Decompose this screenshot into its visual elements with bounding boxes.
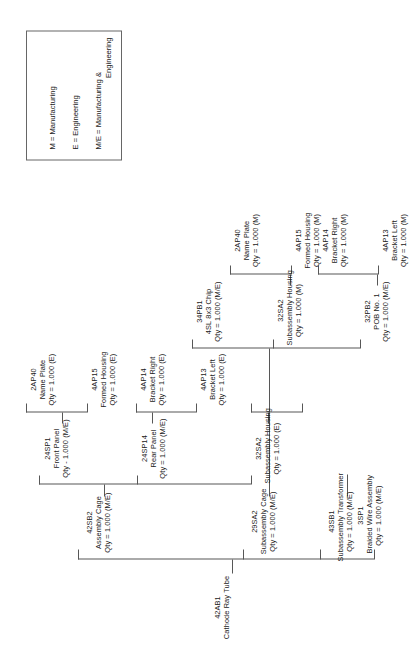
node-desc: POB No. 1 <box>372 279 381 343</box>
legend-row-e: E = Engineering <box>71 95 81 149</box>
node-desc: Name Plate <box>242 211 251 269</box>
node-2AP40-e[interactable]: 2AP40 Name Plate Qty = 1.000 (E) <box>29 351 57 407</box>
node-code: 42SB2 <box>85 491 94 553</box>
connector-32PB2-4AP13 <box>378 265 379 274</box>
connector-32SA2a-spine <box>251 411 302 412</box>
node-desc: Bracket Left <box>390 211 399 269</box>
connector-42SB2-24SP14 <box>137 475 138 484</box>
node-desc: Subassembly Cage <box>259 487 268 555</box>
node-qty: Qty = 1.000 (M/E) <box>268 487 277 555</box>
node-code: 24SP1 <box>43 417 52 479</box>
node-qty: Qty = 1.000 (M/E) <box>103 491 112 553</box>
connector-29SA2-spine <box>192 347 360 348</box>
legend-row-me: M/E = Manufacturing & Engineering <box>94 37 114 149</box>
connector-24SP14-4AP14 <box>136 403 137 412</box>
node-desc: Cathode Ray Tube <box>222 573 231 641</box>
node-desc: Formed Housing <box>99 349 108 409</box>
node-desc: Bracket Left <box>208 351 217 407</box>
node-code: 4AP15 <box>294 210 303 270</box>
node-4AP14-m[interactable]: 4AP14 Bracket Right Qty = 1.000 (M) <box>321 211 349 269</box>
node-code: 4AP15 <box>90 349 99 409</box>
node-qty: Qty = 1.000 (M) <box>399 211 408 269</box>
node-desc: Subassembly Transformer <box>336 481 345 561</box>
node-desc: Bracket Right <box>330 211 339 269</box>
node-4AP13-e[interactable]: 4AP13 Bracket Left Qty = 1.000 (E) <box>199 351 227 407</box>
node-desc: Subassembly Housing <box>285 275 294 345</box>
node-24SP14[interactable]: 24SP14 Rear Panel Qty = 1.000 (M/E) <box>140 417 168 479</box>
node-qty: Qty = 1.000 (M/E) <box>381 279 390 343</box>
node-code: 42AB1 <box>213 573 222 641</box>
connector-24SP14-spine <box>136 411 196 412</box>
node-code: 32SA2 <box>254 413 263 483</box>
node-43SB1[interactable]: 43SB1 Subassembly Transformer Qty = 1.00… <box>327 481 355 561</box>
node-qty: Qty = 1.000 (M/E) <box>345 481 354 561</box>
node-32SA2-m[interactable]: 32SA2 Subassembly Housing Qty = 1.000 (M… <box>276 275 304 345</box>
node-qty: Qty = 1.000 (E) <box>47 351 56 407</box>
node-desc: 4SL 8x3 Chip <box>204 279 213 343</box>
node-code: 3SP1 <box>356 477 365 553</box>
node-2AP40-m[interactable]: 2AP40 Name Plate Qty = 1.000 (M) <box>233 211 261 269</box>
node-qty: Qty = 1.000 (M/E) <box>374 477 383 553</box>
node-34PB1[interactable]: 34PB1 4SL 8x3 Chip Qty = 1.000 (M/E) <box>195 279 223 343</box>
connector-42SB2-24SP1 <box>39 475 40 484</box>
node-29SA2[interactable]: 29SA2 Subassembly Cage Qty = 1.000 (M/E) <box>250 487 278 555</box>
legend-row-m: M = Manufacturing <box>48 86 58 149</box>
node-4AP13-m[interactable]: 4AP13 Bracket Left Qty = 1.000 (M) <box>381 211 409 269</box>
connector-29SA2-34PB1 <box>192 339 193 348</box>
node-4AP14-e[interactable]: 4AP14 Bracket Right Qty = 1.000 (E) <box>139 351 167 407</box>
node-code: 2AP40 <box>29 351 38 407</box>
node-qty: Qty = 1.000 (E) <box>272 413 281 483</box>
connector-32SA2a-4AP13 <box>302 403 303 412</box>
node-24SP1[interactable]: 24SP1 Front Panel Qty - 1.000 (M/E) <box>43 417 71 479</box>
node-code: 32SA2 <box>276 275 285 345</box>
node-qty: Qty = 1.000 (M/E) <box>213 279 222 343</box>
node-code: 2AP40 <box>233 211 242 269</box>
node-32PB2[interactable]: 32PB2 POB No. 1 Qty = 1.000 (M/E) <box>363 279 391 343</box>
node-desc: Name Plate <box>38 351 47 407</box>
legend-text: E = Engineering <box>71 95 80 149</box>
connector-29SA2-32SA2b <box>273 339 274 348</box>
connector-42SB2-32SA2a <box>251 475 252 484</box>
node-desc: Rear Panel <box>149 417 158 479</box>
node-4AP15-m[interactable]: 4AP15 Formed Housing Qty = 1.000 (M) <box>294 210 322 270</box>
legend-text: M/E = Manufacturing & <box>94 72 103 149</box>
node-qty: Qty = 1.000 (M) <box>294 275 303 345</box>
legend-text: M = Manufacturing <box>48 86 57 149</box>
node-desc: Front Panel <box>52 417 61 479</box>
node-qty: Qty = 1.000 (M/E) <box>158 417 167 479</box>
node-42SB2[interactable]: 42SB2 Assembly Cage Qty = 1.000 (M/E) <box>85 491 113 553</box>
connector-l1-29SA2 <box>243 549 244 559</box>
node-4AP15-e[interactable]: 4AP15 Formed Housing Qty = 1.000 (E) <box>90 349 118 409</box>
node-code: 4AP13 <box>199 351 208 407</box>
legend-box: M = Manufacturing E = Engineering M/E = … <box>26 30 122 160</box>
node-qty: Qty = 1.000 (M) <box>251 211 260 269</box>
node-code: 43SB1 <box>327 481 336 561</box>
connector-24SP14-4AP13 <box>196 403 197 412</box>
node-code: 4AP13 <box>381 211 390 269</box>
connector-24SP1-spine <box>26 411 87 412</box>
node-42AB1[interactable]: 42AB1 Cathode Ray Tube <box>213 573 231 641</box>
node-code: 34PB1 <box>195 279 204 343</box>
node-code: 32PB2 <box>363 279 372 343</box>
connector-32SA2b-spine <box>230 273 291 274</box>
legend-text-cont: Engineering <box>104 37 114 149</box>
node-code: 4AP14 <box>139 351 148 407</box>
node-32SA2-e[interactable]: 32SA2 Subassembly Housing Qty = 1.000 (E… <box>254 413 282 483</box>
connector-root-stub <box>232 559 233 573</box>
connector-32SA2a-4AP14 <box>251 403 252 412</box>
node-qty: Qty = 1.000 (M) <box>339 211 348 269</box>
connector-29SA2-32PB2 <box>360 339 361 348</box>
node-qty: Qty = 1.000 (E) <box>217 351 226 407</box>
node-code: 4AP14 <box>321 211 330 269</box>
node-qty: Qty = 1.000 (E) <box>108 349 117 409</box>
connector-l1-42SB2 <box>78 549 79 559</box>
node-3SP1[interactable]: 3SP1 Braided Wire Assembly Qty = 1.000 (… <box>356 477 384 553</box>
node-desc: Braided Wire Assembly <box>365 477 374 553</box>
node-code: 24SP14 <box>140 417 149 479</box>
node-desc: Subassembly Housing <box>263 413 272 483</box>
connector-42SB2-spine <box>39 483 251 484</box>
node-desc: Assembly Cage <box>94 491 103 553</box>
node-desc: Bracket Right <box>148 351 157 407</box>
